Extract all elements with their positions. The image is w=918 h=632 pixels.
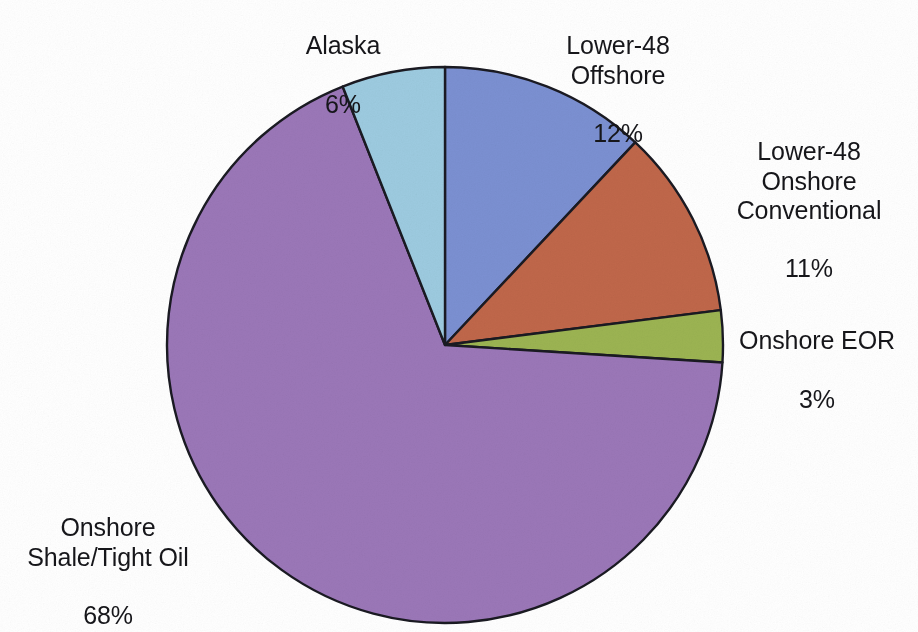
slice-label-onshore-shale-tight-oil-percent: 68% <box>0 601 216 630</box>
slice-label-lower48-onshore-conventional-name: Lower-48 Onshore Conventional <box>700 137 918 225</box>
slice-label-lower48-onshore-conventional: Lower-48 Onshore Conventional 11% <box>700 108 918 313</box>
slice-label-onshore-eor: Onshore EOR 3% <box>716 297 918 443</box>
slice-label-alaska-name: Alaska <box>243 31 443 60</box>
slice-label-onshore-shale-tight-oil-name: Onshore Shale/Tight Oil <box>0 513 216 572</box>
slice-label-lower48-offshore-percent: 12% <box>508 119 728 148</box>
slice-label-onshore-shale-tight-oil: Onshore Shale/Tight Oil 68% <box>0 484 216 632</box>
slice-label-onshore-eor-name: Onshore EOR <box>716 326 918 355</box>
pie-chart: Lower-48 Offshore 12%Lower-48 Onshore Co… <box>0 0 918 632</box>
slice-label-alaska-percent: 6% <box>243 90 443 119</box>
slice-label-lower48-onshore-conventional-percent: 11% <box>700 254 918 283</box>
slice-label-lower48-offshore: Lower-48 Offshore 12% <box>508 2 728 178</box>
slice-label-lower48-offshore-name: Lower-48 Offshore <box>508 31 728 90</box>
slice-label-onshore-eor-percent: 3% <box>716 385 918 414</box>
slice-label-alaska: Alaska 6% <box>243 2 443 148</box>
